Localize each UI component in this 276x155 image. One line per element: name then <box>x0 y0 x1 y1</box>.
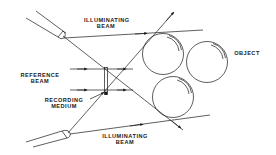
object-sphere-1 <box>143 34 184 75</box>
lower-incoming-beam <box>26 131 67 147</box>
label-recording-medium-line2: MEDIUM <box>38 103 90 109</box>
label-illuminating-beam-top-line2: BEAM <box>84 23 128 29</box>
object-sphere-3 <box>153 77 194 118</box>
recording-medium-pointer <box>90 93 103 99</box>
label-object: OBJECT <box>229 50 265 56</box>
label-illuminating-beam-bottom-line2: BEAM <box>100 139 150 145</box>
holography-diagram: ILLUMINATING BEAM OBJECT REFERENCE BEAM … <box>0 0 276 155</box>
diagonal-ray-down-arrow <box>172 121 180 128</box>
label-illuminating-beam-bottom: ILLUMINATING BEAM <box>100 133 150 146</box>
object-sphere-2 <box>187 42 228 83</box>
label-illuminating-beam-top: ILLUMINATING BEAM <box>84 17 128 30</box>
label-reference-beam-line2: BEAM <box>14 78 66 84</box>
label-object-text: OBJECT <box>229 50 265 56</box>
label-recording-medium: RECORDING MEDIUM <box>38 97 90 110</box>
diagonal-ray-up <box>68 12 174 133</box>
upper-illuminating-beam <box>64 30 203 38</box>
diagonal-ray-up-arrow <box>166 13 173 21</box>
lower-illuminating-beam-arrow <box>130 124 142 126</box>
upper-incoming-beam <box>26 11 63 37</box>
label-reference-beam: REFERENCE BEAM <box>14 72 66 85</box>
